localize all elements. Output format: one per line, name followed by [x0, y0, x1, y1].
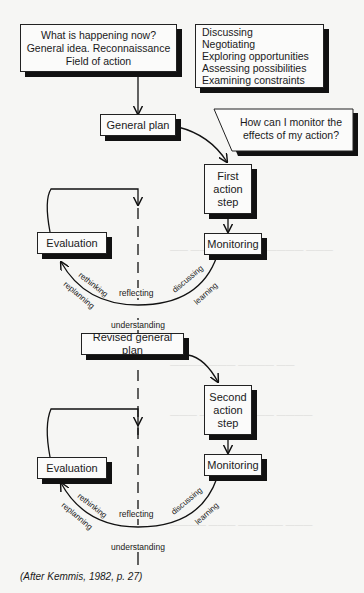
evaluation-box-2: Evaluation: [37, 457, 107, 479]
activity-item: Discussing: [202, 26, 323, 38]
figure-caption: (After Kemmis, 1982, p. 27): [20, 571, 142, 582]
start-line: General idea. Reconnaissance: [21, 42, 176, 55]
reflecting-label-2: reflecting: [118, 509, 155, 519]
action-line: First: [205, 170, 251, 183]
start-line: Field of action: [21, 55, 176, 68]
activities-box: Discussing Negotiating Exploring opportu…: [195, 24, 324, 88]
understanding-label-1: understanding: [110, 320, 166, 330]
action-line: step: [205, 417, 251, 430]
action-line: action: [205, 404, 251, 417]
activity-item: Negotiating: [202, 38, 323, 50]
action-line: action: [205, 183, 251, 196]
activity-item: Examining constraints: [202, 74, 323, 86]
start-box: What is happening now? General idea. Rec…: [20, 24, 177, 72]
arc-label-discussing: discussing: [171, 264, 205, 295]
reflecting-label-1: reflecting: [118, 288, 155, 298]
general-plan-label: General plan: [101, 119, 175, 132]
monitoring-label: Monitoring: [205, 238, 261, 251]
arc-label-learning: learning: [193, 501, 220, 527]
activity-item: Assessing possibilities: [202, 62, 323, 74]
revised-general-plan-box: Revised general plan: [81, 333, 184, 355]
loop-evaluation2: [47, 409, 138, 457]
activity-item: Exploring opportunities: [202, 50, 323, 62]
action-line: step: [205, 196, 251, 209]
loop-evaluation1: [47, 189, 138, 232]
arc-label-discussing: discussing: [170, 486, 204, 517]
second-action-step-box: Second action step: [204, 385, 252, 435]
question-callout: How can I monitor the effects of my acti…: [232, 116, 350, 142]
first-action-step-box: First action step: [204, 164, 252, 214]
arrow-plan-to-action2: [188, 355, 218, 382]
general-plan-box: General plan: [100, 114, 176, 136]
arc-label-learning: learning: [192, 281, 219, 307]
callout-line: How can I monitor the: [232, 116, 350, 129]
start-line: What is happening now?: [21, 29, 176, 42]
monitoring-label: Monitoring: [205, 459, 261, 472]
evaluation-label: Evaluation: [38, 237, 106, 250]
evaluation-box-1: Evaluation: [37, 232, 107, 254]
monitoring-box-1: Monitoring: [204, 233, 262, 255]
diagram-connectors: rethinking replanning discussing learnin…: [0, 0, 364, 593]
revised-plan-label: Revised general plan: [82, 331, 183, 357]
understanding-label-2: understanding: [110, 542, 166, 552]
evaluation-label: Evaluation: [38, 462, 106, 475]
callout-line: effects of my action?: [232, 129, 350, 142]
action-line: Second: [205, 391, 251, 404]
monitoring-box-2: Monitoring: [204, 454, 262, 476]
